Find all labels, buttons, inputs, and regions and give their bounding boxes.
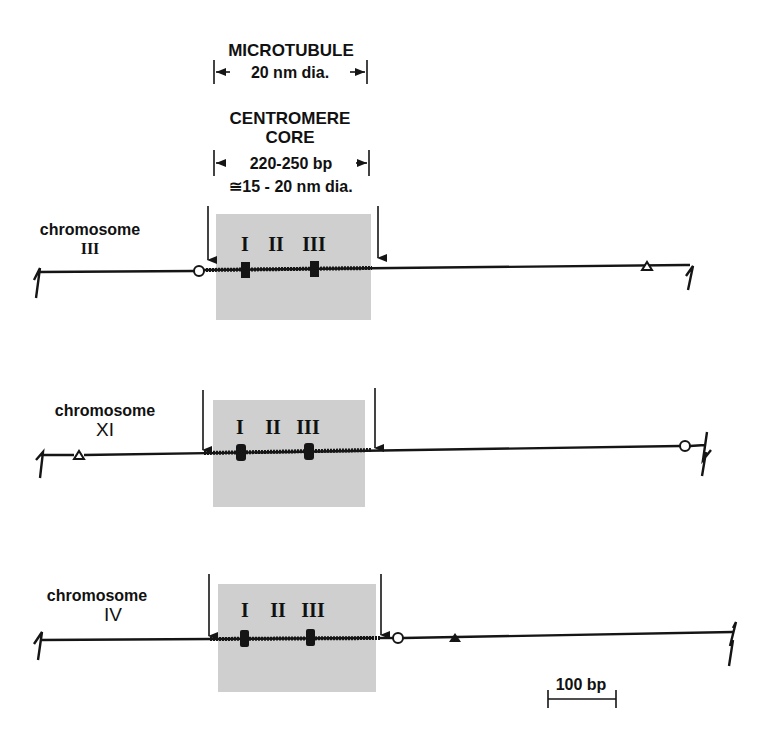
break-symbol-right: [690, 432, 711, 476]
break-symbol-left: [34, 268, 195, 298]
chromosome-IV-track: chromosome IV I II III: [34, 574, 736, 692]
scale-bar-label: 100 bp: [556, 676, 607, 693]
header-annotations: MICROTUBULE 20 nm dia. CENTROMERE CORE 2…: [214, 41, 369, 195]
element-I-label: I: [236, 416, 244, 438]
microtubule-dimension: 20 nm dia.: [251, 64, 329, 81]
break-symbol-right: [729, 622, 736, 666]
cde-I-block: [240, 630, 249, 647]
open-circle-marker: [194, 266, 204, 276]
cde-III-block: [306, 629, 315, 646]
microtubule-title: MICROTUBULE: [228, 41, 354, 60]
chromosome-number: III: [81, 240, 100, 257]
element-II-label: II: [268, 233, 284, 255]
chromosome-III-track: chromosome III I II III: [34, 206, 693, 320]
centromere-title-line2: CORE: [265, 128, 314, 147]
cde-I-block: [241, 262, 250, 278]
centromere-dna-segment: [210, 638, 380, 639]
break-symbol-left: [36, 452, 74, 478]
centromere-diagram: MICROTUBULE 20 nm dia. CENTROMERE CORE 2…: [0, 0, 765, 734]
chromosome-line: [84, 446, 680, 455]
cde-I-block: [236, 444, 246, 461]
open-triangle-marker: [642, 262, 652, 270]
break-symbol-right: [685, 265, 693, 290]
centromere-title-line1: CENTROMERE: [230, 109, 351, 128]
element-III-label: III: [302, 233, 326, 255]
open-triangle-marker: [74, 451, 84, 459]
centromere-length: 220-250 bp: [250, 155, 333, 172]
element-I-label: I: [241, 233, 249, 255]
chromosome-number: XI: [96, 419, 114, 440]
chromosome-number: IV: [104, 604, 122, 625]
element-I-label: I: [241, 599, 249, 621]
chromosome-XI-track: chromosome XI I II III: [36, 388, 711, 507]
chromosome-label: chromosome: [40, 221, 141, 238]
chromosome-label: chromosome: [47, 587, 148, 604]
element-II-label: II: [265, 416, 281, 438]
element-III-label: III: [301, 599, 325, 621]
element-III-label: III: [296, 416, 320, 438]
element-II-label: II: [270, 599, 286, 621]
scale-bar: 100 bp: [548, 676, 616, 708]
chromosome-label: chromosome: [55, 402, 156, 419]
cde-III-block: [304, 443, 314, 460]
open-circle-marker: [393, 633, 403, 643]
cde-III-block: [310, 261, 319, 277]
open-circle-marker: [680, 441, 690, 451]
centromere-diameter: ≅15 - 20 nm dia.: [229, 178, 352, 195]
